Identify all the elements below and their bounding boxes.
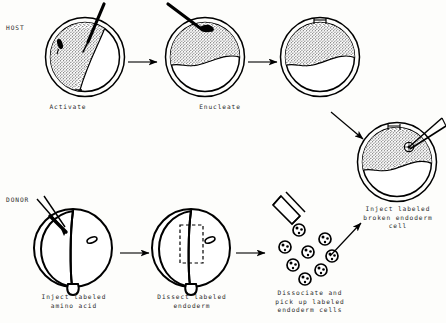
diagram-svg (0, 0, 446, 323)
dissociated-cell (302, 246, 314, 258)
caption-enucleate: Enucleate (180, 103, 260, 112)
dissociated-cell (326, 250, 338, 262)
caption-inject-amino-acid: Inject labeled amino acid (26, 293, 122, 310)
donor-embryo-dissect (152, 209, 230, 295)
dissociated-cell (279, 241, 291, 253)
dissociated-cell (287, 259, 299, 271)
donor-embryo-inject (34, 196, 112, 295)
dissociated-cell (299, 273, 311, 285)
row-label-host: HOST (6, 24, 25, 31)
host-cell-activate (46, 4, 125, 97)
host-cell-enucleate (166, 4, 245, 97)
figure-canvas: HOST DONOR Activate Enucleate Inject lab… (0, 0, 446, 323)
host-arrow-down-right (331, 112, 363, 139)
caption-dissect-endoderm: Dissect labeled endoderm (144, 293, 240, 310)
dissociated-cell (293, 224, 305, 236)
caption-inject-broken-endoderm: Inject labeled broken endoderm cell (352, 205, 444, 231)
caption-activate: Activate (28, 103, 108, 112)
dissociated-cell (319, 233, 331, 245)
host-cell-injected (358, 118, 446, 202)
row-label-donor: DONOR (6, 196, 29, 203)
caption-dissociate-pick-up: Dissociate and pick up labeled endoderm … (258, 289, 362, 315)
wide-pipette (273, 192, 305, 224)
dissociated-cells (279, 224, 338, 285)
host-cell-enucleated (281, 18, 360, 97)
dissociated-cell (315, 264, 327, 276)
